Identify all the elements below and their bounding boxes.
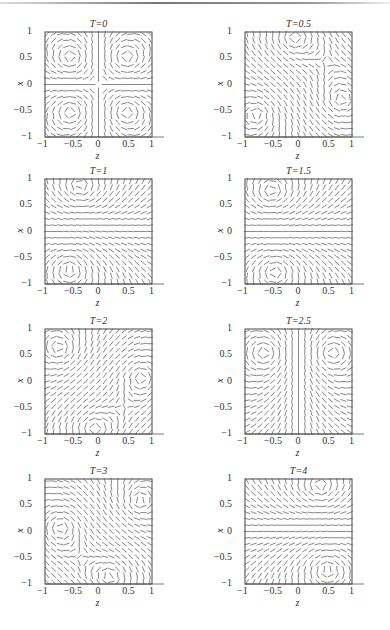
x-tick-label: 1 [349, 138, 354, 149]
y-tick-label: −0.5 [14, 401, 32, 412]
x-tick-label: −0.5 [64, 138, 82, 149]
x-tick-label: 0.5 [122, 585, 135, 596]
x-tick-label: 1 [149, 138, 154, 149]
subplot-7: T=310.50−0.5−1−1−0.500.51zx [0, 465, 160, 615]
x-tick-label: 1 [349, 585, 354, 596]
y-tick-label: 0.5 [20, 51, 33, 62]
x-tick-label: −0.5 [264, 138, 282, 149]
x-tick-label: −0.5 [64, 435, 82, 446]
subplot-2: T=0.510.50−0.5−1−1−0.500.51zx [200, 18, 360, 168]
x-tick-label: 0 [96, 585, 101, 596]
y-axis-label: x [214, 378, 225, 382]
x-tick-label: 0 [96, 435, 101, 446]
vector-field-plot [200, 18, 370, 168]
x-tick-label: −1 [37, 585, 48, 596]
y-tick-label: −1 [221, 130, 232, 141]
y-tick-label: 0 [27, 225, 32, 236]
y-tick-label: 0 [27, 375, 32, 386]
x-tick-label: −0.5 [264, 585, 282, 596]
y-tick-label: 1 [27, 322, 32, 333]
vector-field-plot [0, 465, 170, 615]
x-axis-label: z [296, 150, 300, 161]
y-tick-label: −1 [21, 427, 32, 438]
x-tick-label: 1 [149, 285, 154, 296]
y-axis-label: x [14, 528, 25, 532]
x-tick-label: −0.5 [264, 285, 282, 296]
y-tick-label: −1 [21, 577, 32, 588]
y-tick-label: 0.5 [220, 198, 233, 209]
y-tick-label: 0.5 [220, 348, 233, 359]
y-tick-label: −0.5 [14, 551, 32, 562]
vector-field-plot [0, 165, 170, 315]
y-tick-label: −0.5 [14, 104, 32, 115]
x-tick-label: 1 [149, 435, 154, 446]
subplot-8: T=410.50−0.5−1−1−0.500.51zx [200, 465, 360, 615]
x-tick-label: −1 [37, 435, 48, 446]
y-tick-label: −1 [221, 427, 232, 438]
y-axis-label: x [214, 528, 225, 532]
x-axis-label: z [96, 297, 100, 308]
page-top-rule [0, 2, 390, 4]
y-tick-label: 0.5 [20, 198, 33, 209]
subplot-1: T=010.50−0.5−1−1−0.500.51zx [0, 18, 160, 168]
y-tick-label: 0 [227, 375, 232, 386]
x-tick-label: 0.5 [322, 138, 335, 149]
x-tick-label: −0.5 [64, 585, 82, 596]
y-tick-label: 1 [27, 172, 32, 183]
x-tick-label: 1 [349, 285, 354, 296]
x-tick-label: 0.5 [122, 285, 135, 296]
x-tick-label: 0.5 [122, 138, 135, 149]
y-tick-label: 0.5 [220, 498, 233, 509]
x-tick-label: 1 [149, 585, 154, 596]
y-tick-label: −0.5 [14, 251, 32, 262]
y-tick-label: 1 [227, 172, 232, 183]
y-tick-label: 1 [227, 322, 232, 333]
vector-field-plot [0, 315, 170, 465]
x-tick-label: −0.5 [64, 285, 82, 296]
y-tick-label: 0 [227, 525, 232, 536]
x-tick-label: 0 [96, 138, 101, 149]
y-tick-label: 0 [227, 225, 232, 236]
x-axis-label: z [96, 597, 100, 608]
y-axis-label: x [14, 81, 25, 85]
x-axis-label: z [296, 447, 300, 458]
vector-field-plot [200, 465, 370, 615]
y-tick-label: −1 [221, 577, 232, 588]
y-tick-label: −1 [21, 130, 32, 141]
y-tick-label: −0.5 [214, 401, 232, 412]
y-tick-label: 0.5 [20, 498, 33, 509]
x-axis-label: z [296, 597, 300, 608]
x-tick-label: 0 [296, 585, 301, 596]
x-tick-label: 0 [296, 138, 301, 149]
vector-field-plot [0, 18, 170, 168]
y-tick-label: 1 [227, 25, 232, 36]
x-tick-label: −0.5 [264, 435, 282, 446]
y-tick-label: −0.5 [214, 104, 232, 115]
x-tick-label: −1 [237, 435, 248, 446]
x-tick-label: 1 [349, 435, 354, 446]
subplot-6: T=2.510.50−0.5−1−1−0.500.51zx [200, 315, 360, 465]
subplot-3: T=110.50−0.5−1−1−0.500.51zx [0, 165, 160, 315]
x-tick-label: 0.5 [322, 285, 335, 296]
x-tick-label: 0 [96, 285, 101, 296]
y-axis-label: x [214, 228, 225, 232]
subplot-5: T=210.50−0.5−1−1−0.500.51zx [0, 315, 160, 465]
x-axis-label: z [96, 447, 100, 458]
y-tick-label: −0.5 [214, 251, 232, 262]
x-tick-label: 0.5 [122, 435, 135, 446]
vector-field-plot [200, 315, 370, 465]
x-axis-label: z [296, 297, 300, 308]
y-tick-label: 1 [27, 25, 32, 36]
y-tick-label: 0.5 [220, 51, 233, 62]
x-tick-label: 0.5 [322, 585, 335, 596]
y-tick-label: 0 [27, 525, 32, 536]
x-tick-label: 0.5 [322, 435, 335, 446]
subplot-4: T=1.510.50−0.5−1−1−0.500.51zx [200, 165, 360, 315]
x-axis-label: z [96, 150, 100, 161]
x-tick-label: −1 [37, 138, 48, 149]
x-tick-label: −1 [237, 138, 248, 149]
y-tick-label: −1 [221, 277, 232, 288]
y-tick-label: 0 [27, 78, 32, 89]
y-tick-label: −0.5 [214, 551, 232, 562]
y-tick-label: 1 [27, 472, 32, 483]
